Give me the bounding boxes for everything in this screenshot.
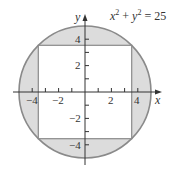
- y-axis-label: y: [74, 10, 81, 24]
- y-tick-label: −4: [69, 139, 81, 151]
- y-tick-label: 4: [75, 33, 81, 45]
- circle-square-diagram: x y −4 −2 2 4 4 2 −2 −4 x2 + y2 = 25: [0, 0, 169, 177]
- y-tick-label: 2: [75, 59, 81, 71]
- y-tick-label: −2: [69, 112, 81, 124]
- x-tick-label: −2: [52, 94, 64, 106]
- equation-label: x2 + y2 = 25: [109, 8, 166, 23]
- x-tick-label: −4: [26, 94, 38, 106]
- x-tick-label: 4: [134, 94, 140, 106]
- x-tick-label: 2: [108, 94, 114, 106]
- y-axis-arrow-icon: [83, 14, 88, 21]
- x-axis-label: x: [154, 93, 161, 107]
